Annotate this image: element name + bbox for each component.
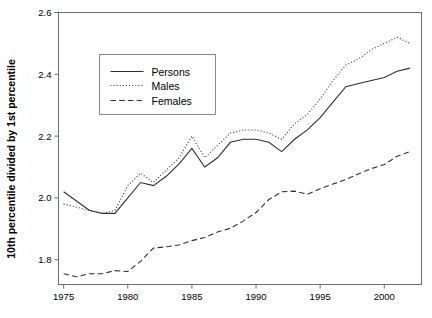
x-tick-label: 1995 — [310, 291, 331, 302]
y-tick-label: 2.0 — [38, 192, 51, 203]
legend-label-persons: Persons — [152, 66, 191, 78]
plot-frame — [59, 13, 422, 285]
x-tick-label: 1990 — [245, 291, 266, 302]
x-tick-label: 2000 — [374, 291, 395, 302]
chart-figure: 10th percentile divided by 1st percentil… — [0, 0, 432, 318]
series-line-females — [64, 152, 410, 277]
legend-label-females: Females — [152, 95, 192, 107]
x-tick-label: 1985 — [181, 291, 202, 302]
y-tick-label: 2.6 — [38, 7, 51, 18]
y-tick-label: 2.4 — [38, 69, 51, 80]
legend-label-males: Males — [152, 80, 180, 92]
plot-area: 1.82.02.22.42.6197519801985199019952000P… — [0, 0, 432, 318]
y-tick-label: 2.2 — [38, 131, 51, 142]
x-tick-label: 1975 — [53, 291, 74, 302]
x-tick-label: 1980 — [117, 291, 138, 302]
y-tick-label: 1.8 — [38, 254, 51, 265]
